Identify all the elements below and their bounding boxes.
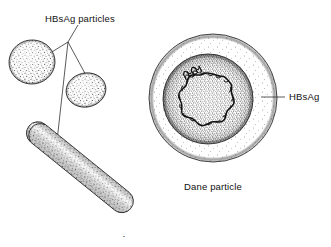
- hbsag-envelope-label: HBsAg: [289, 91, 319, 102]
- page-mark: ·: [122, 230, 125, 241]
- diagram-canvas: HBsAg particles HBsAg Dane particle ·: [0, 0, 331, 247]
- dane-particle-caption: Dane particle: [184, 181, 242, 192]
- hbsag-particles-label: HBsAg particles: [45, 13, 115, 24]
- hbv-particles-figure: HBsAg particles HBsAg Dane particle ·: [0, 0, 331, 247]
